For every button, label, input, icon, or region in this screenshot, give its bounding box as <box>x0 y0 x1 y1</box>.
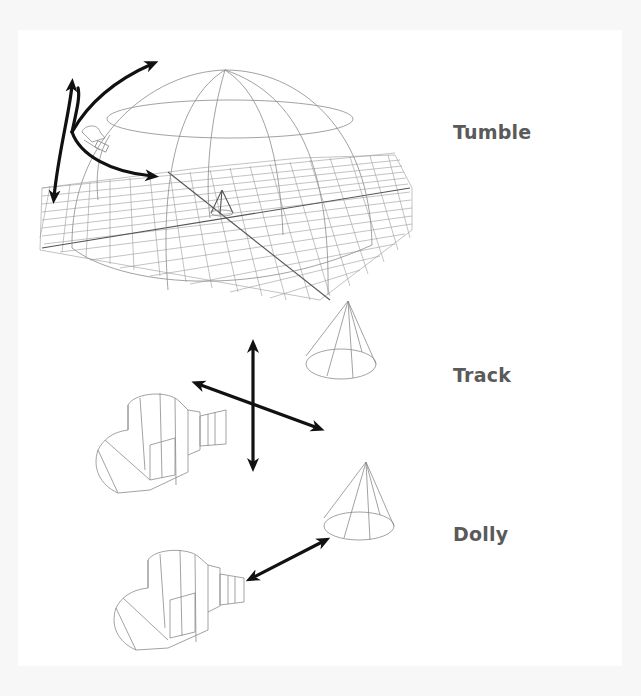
dolly-arrow-icon <box>252 541 324 578</box>
wireframe-hemisphere <box>72 70 372 295</box>
grid-plane <box>40 153 412 300</box>
tumble-label: Tumble <box>453 121 531 143</box>
dolly-camera <box>114 550 244 650</box>
tumble-illustration <box>40 64 412 300</box>
track-camera <box>96 393 226 493</box>
small-cone <box>211 190 233 216</box>
tumble-arrows-icon <box>54 64 152 197</box>
dolly-label: Dolly <box>453 523 508 545</box>
track-label: Track <box>453 364 511 386</box>
dolly-cone <box>324 462 394 540</box>
track-cone <box>306 301 376 379</box>
track-arrows-icon <box>198 346 318 465</box>
track-illustration <box>96 301 376 493</box>
dolly-illustration <box>114 462 394 650</box>
camera-modes-illustration <box>0 0 641 696</box>
small-camera <box>82 126 109 152</box>
